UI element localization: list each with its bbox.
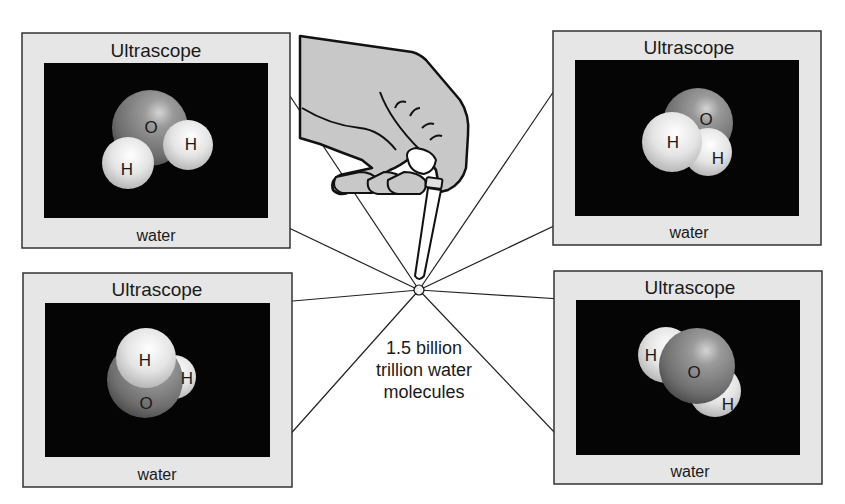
hydrogen-label: H bbox=[181, 369, 193, 388]
hydrogen-label: H bbox=[712, 149, 724, 168]
hydrogen-label: H bbox=[139, 351, 151, 370]
line-top-right-lower bbox=[419, 216, 575, 290]
line-bottom-right-upper bbox=[419, 290, 576, 300]
scope-title: Ultrascope bbox=[644, 37, 735, 58]
water-drop-ultrascope-diagram: Ultrascope water O H H Ultrascope water … bbox=[0, 0, 845, 504]
dropper-tube bbox=[415, 188, 441, 279]
caption-line-2: trillion water bbox=[376, 360, 472, 380]
oxygen-label: O bbox=[687, 363, 700, 382]
ultrascope-top-left: Ultrascope water O H H bbox=[22, 33, 290, 248]
scope-caption: water bbox=[669, 463, 710, 480]
scope-caption: water bbox=[668, 224, 709, 241]
scope-title: Ultrascope bbox=[112, 279, 203, 300]
drop-caption: 1.5 billion trillion water molecules bbox=[376, 338, 472, 402]
hydrogen-label: H bbox=[645, 346, 657, 365]
scope-caption: water bbox=[136, 466, 177, 483]
hydrogen-label: H bbox=[121, 160, 133, 179]
hand-icon bbox=[300, 36, 468, 194]
oxygen-label: O bbox=[699, 110, 712, 129]
scope-title: Ultrascope bbox=[645, 277, 736, 298]
hydrogen-label: H bbox=[185, 135, 197, 154]
oxygen-label: O bbox=[139, 394, 152, 413]
ultrascope-bottom-left: Ultrascope water H H O bbox=[23, 273, 292, 487]
ultrascope-top-right: Ultrascope water O H H bbox=[553, 31, 821, 245]
hydrogen-label: H bbox=[667, 133, 679, 152]
hydrogen-label: H bbox=[722, 395, 734, 414]
caption-line-1: 1.5 billion bbox=[386, 338, 462, 358]
caption-line-3: molecules bbox=[383, 382, 464, 402]
hand-with-dropper bbox=[300, 36, 468, 295]
scope-caption: water bbox=[135, 227, 176, 244]
ultrascope-bottom-right: Ultrascope water H O H bbox=[554, 271, 822, 484]
oxygen-label: O bbox=[144, 118, 157, 137]
scope-title: Ultrascope bbox=[111, 40, 202, 61]
